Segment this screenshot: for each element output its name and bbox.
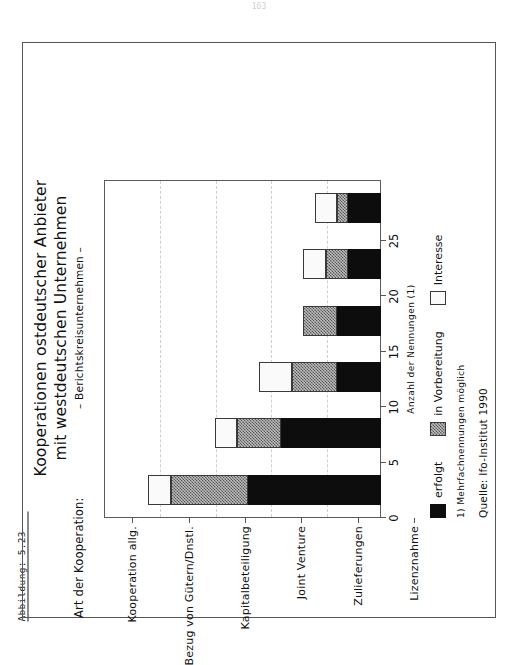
- source-note: Quelle: Ifo-Institut 1990: [477, 88, 489, 518]
- bar-segment[interactable]: [303, 250, 325, 280]
- bar-segment[interactable]: [303, 306, 336, 336]
- bar-segment[interactable]: [292, 362, 336, 392]
- value-tick-label: 10: [387, 400, 401, 415]
- value-tick-label: 20: [387, 289, 401, 304]
- bar-segment[interactable]: [171, 475, 249, 505]
- value-tick-label: 5: [387, 459, 401, 466]
- category-label: Joint Venture: [295, 526, 308, 599]
- category-label: Kooperation allg.: [126, 526, 139, 622]
- category-label: Kapitalbeteiligung: [238, 526, 251, 629]
- bar-column[interactable]: [303, 306, 381, 336]
- chart-title-line-1: Kooperationen ostdeutscher Anbieter: [32, 78, 52, 578]
- category-tick-mark: [414, 518, 415, 523]
- category-tick-mark: [132, 518, 133, 523]
- chart-title-line-2: mit westdeutschen Unternehmen: [52, 78, 72, 578]
- bar-column[interactable]: [315, 193, 381, 223]
- bar-segment[interactable]: [315, 193, 337, 223]
- value-tick-label: 25: [387, 234, 401, 249]
- bar-column[interactable]: [303, 250, 381, 280]
- bar-column[interactable]: [215, 419, 381, 449]
- value-tick-mark: [381, 517, 386, 518]
- footnote-1: 1) Mehrfachnennungen möglich: [456, 88, 466, 518]
- category-tick-mark: [245, 518, 246, 523]
- bar-column[interactable]: [259, 362, 381, 392]
- bar-segment[interactable]: [248, 475, 381, 505]
- legend-item[interactable]: in Vorbereitung: [430, 331, 446, 436]
- value-tick-mark: [381, 406, 386, 407]
- value-tick-mark: [381, 462, 386, 463]
- chart-legend: erfolgtin VorbereitungInteresse: [430, 118, 446, 518]
- bar-segment[interactable]: [259, 362, 292, 392]
- legend-label: Interesse: [432, 235, 445, 286]
- bar-column[interactable]: [148, 475, 381, 505]
- bar-segment[interactable]: [326, 250, 348, 280]
- value-axis-title: Anzahl der Nennungen (1): [406, 180, 416, 518]
- bars-layer: [104, 180, 381, 518]
- bar-segment[interactable]: [237, 419, 281, 449]
- legend-swatch: [430, 504, 446, 518]
- category-label: Zulieferungen: [351, 526, 364, 606]
- category-tick-mark: [189, 518, 190, 523]
- bar-segment[interactable]: [281, 419, 381, 449]
- page-number: 163: [0, 2, 518, 11]
- value-tick-label: 0: [387, 514, 401, 521]
- footnotes-block: 1) Mehrfachnennungen möglich Quelle: Ifo…: [456, 88, 489, 518]
- bar-segment[interactable]: [348, 250, 381, 280]
- category-axis-title: Art der Kooperation:: [72, 526, 86, 618]
- category-tick-mark: [358, 518, 359, 523]
- value-tick-mark: [381, 240, 386, 241]
- category-label: Lizenznahme: [407, 526, 420, 601]
- legend-item[interactable]: Interesse: [430, 235, 446, 306]
- legend-label: erfolgt: [432, 462, 445, 498]
- bar-segment[interactable]: [215, 419, 237, 449]
- value-tick-mark: [381, 295, 386, 296]
- value-axis: 0510152025: [381, 180, 405, 518]
- legend-label: in Vorbereitung: [432, 331, 445, 416]
- category-tick-mark: [301, 518, 302, 523]
- chart-canvas: Kooperationen ostdeutscher Anbieter mit …: [22, 42, 496, 618]
- bar-segment[interactable]: [337, 362, 381, 392]
- bar-segment[interactable]: [337, 193, 348, 223]
- bar-segment[interactable]: [337, 306, 381, 336]
- value-tick-mark: [381, 351, 386, 352]
- category-axis: Kooperation allg.Bezug von Gütern/Dnstl.…: [104, 518, 381, 618]
- legend-swatch: [430, 422, 446, 436]
- value-tick-label: 15: [387, 344, 401, 359]
- bar-segment[interactable]: [348, 193, 381, 223]
- legend-swatch: [430, 291, 446, 305]
- bar-segment[interactable]: [148, 475, 170, 505]
- legend-item[interactable]: erfolgt: [430, 462, 446, 518]
- category-label: Bezug von Gütern/Dnstl.: [182, 526, 195, 665]
